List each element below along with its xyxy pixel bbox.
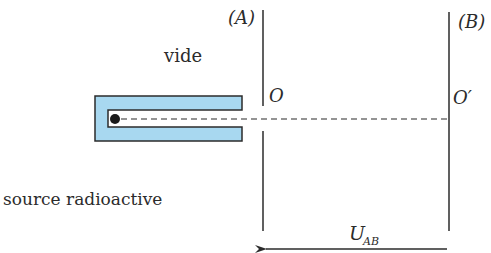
plate-a-label: (A) (228, 7, 255, 28)
source-label: source radioactive (3, 189, 162, 209)
point-o-prime-label: O′ (453, 87, 472, 108)
vacuum-label: vide (163, 45, 202, 66)
radioactive-source (95, 96, 242, 141)
voltage-label: U AB (349, 222, 379, 248)
plate-b-label: (B) (458, 11, 485, 32)
voltage-subscript: AB (362, 235, 379, 248)
diagram-canvas: (A) (B) O O′ vide source radioactive U A… (0, 0, 491, 253)
point-o-label: O (269, 85, 284, 106)
source-particle-dot (110, 114, 120, 124)
